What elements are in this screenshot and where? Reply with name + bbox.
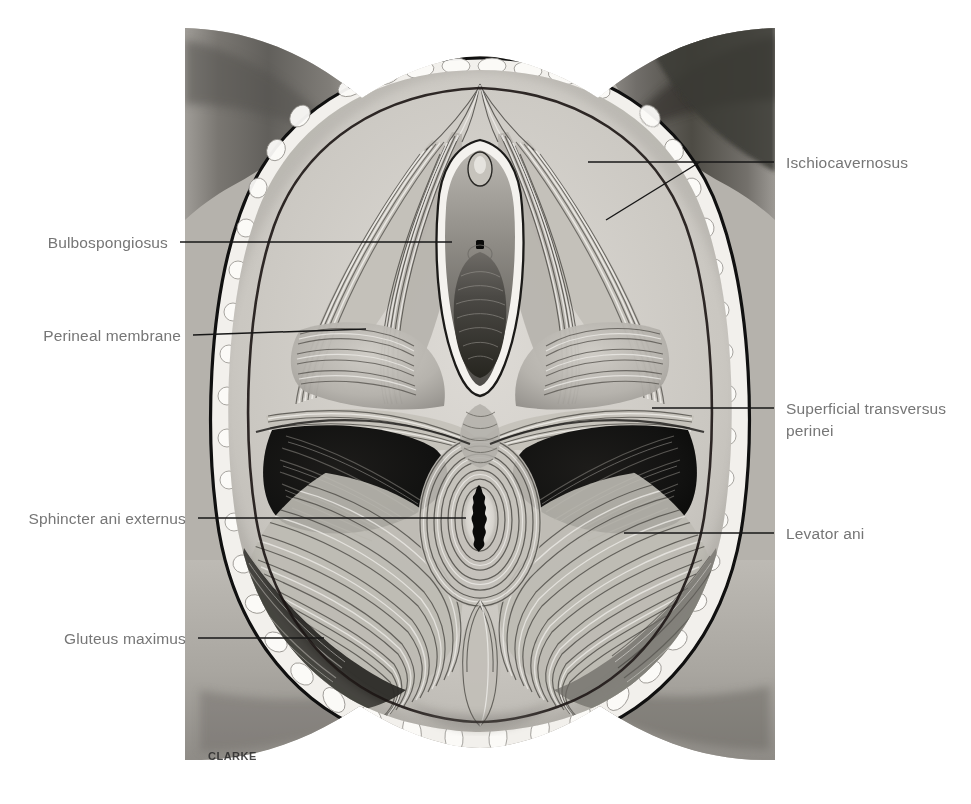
paper-grain [180, 20, 780, 770]
label-ischiocavernosus: Ischiocavernosus [786, 154, 908, 171]
label-gluteus-maximus: Gluteus maximus [64, 630, 186, 647]
label-superficial-transversus-perinei-line2: perinei [786, 422, 834, 439]
anatomical-figure: CLARKE Bulbospongiosus Perineal membrane… [0, 0, 971, 804]
label-bulbospongiosus: Bulbospongiosus [48, 234, 168, 251]
illustration-body [180, 20, 780, 770]
label-perineal-membrane: Perineal membrane [43, 327, 181, 344]
perineum-illustration-svg: CLARKE Bulbospongiosus Perineal membrane… [0, 0, 971, 804]
artist-signature: CLARKE [208, 750, 257, 762]
label-superficial-transversus-perinei-line1: Superficial transversus [786, 400, 946, 417]
label-sphincter-ani-externus: Sphincter ani externus [28, 510, 186, 527]
label-levator-ani: Levator ani [786, 525, 864, 542]
